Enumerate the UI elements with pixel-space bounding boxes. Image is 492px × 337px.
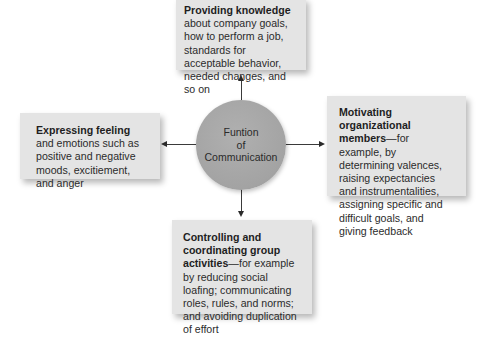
box-title: Expressing feeling xyxy=(36,124,130,136)
box-providing-knowledge: Providing knowledge about company goals,… xyxy=(176,0,306,70)
center-label: Funtion of Communication xyxy=(205,126,278,164)
arrow-right-icon xyxy=(319,141,325,147)
center-label-line2: of xyxy=(205,139,278,152)
box-text: and emotions such as positive and negati… xyxy=(36,137,139,189)
center-label-line1: Funtion xyxy=(205,126,278,139)
arrow-left-icon xyxy=(161,141,167,147)
box-motivating-members: Motivating organizational members—for ex… xyxy=(327,96,466,196)
connector-down xyxy=(241,188,242,212)
connector-left xyxy=(166,144,198,145)
box-text: —for example, by determining valences, r… xyxy=(339,132,443,236)
connector-up xyxy=(241,80,242,102)
arrow-down-icon xyxy=(238,211,244,217)
center-label-line3: Communication xyxy=(205,151,278,164)
box-controlling-coordinating: Controlling and coordinating group activ… xyxy=(172,220,312,314)
arrow-up-icon xyxy=(238,75,244,81)
connector-right xyxy=(284,144,320,145)
box-title: Providing knowledge xyxy=(184,4,291,16)
box-expressing-feeling: Expressing feeling and emotions such as … xyxy=(20,113,160,179)
center-circle: Funtion of Communication xyxy=(196,100,286,190)
box-text: about company goals, how to perform a jo… xyxy=(184,17,288,95)
